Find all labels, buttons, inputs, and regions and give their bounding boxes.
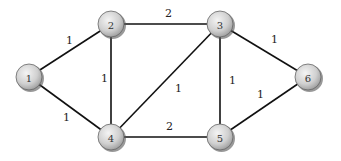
node-label: 1 [26, 73, 32, 84]
edge-weight-3-5: 1 [229, 74, 236, 87]
node-5: 5 [207, 124, 235, 152]
node-2: 2 [98, 11, 126, 39]
weight-labels-layer: 112111121 [63, 7, 278, 133]
edge-weight-2-4: 1 [101, 72, 108, 85]
edge-weight-5-6: 1 [257, 88, 264, 101]
node-label: 4 [108, 133, 114, 144]
node-1: 1 [16, 64, 44, 92]
edge-weight-4-5: 2 [166, 120, 173, 133]
node-label: 5 [217, 133, 223, 144]
node-4: 4 [98, 124, 126, 152]
node-6: 6 [295, 64, 323, 92]
node-3: 3 [207, 11, 235, 39]
edge-weight-1-4: 1 [63, 111, 70, 124]
edge-weight-3-4: 1 [175, 82, 182, 95]
edge-weight-1-2: 1 [66, 34, 73, 47]
edge-weight-3-6: 1 [271, 33, 278, 46]
graph-diagram: 112111121 123456 [0, 0, 341, 161]
edge-1-2 [29, 24, 111, 77]
node-label: 3 [217, 20, 223, 31]
edge-weight-2-3: 2 [165, 7, 172, 20]
node-label: 2 [108, 20, 114, 31]
node-label: 6 [305, 73, 311, 84]
